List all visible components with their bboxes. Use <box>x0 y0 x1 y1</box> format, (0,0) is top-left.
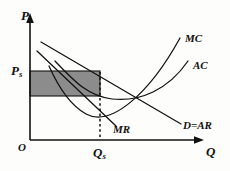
price-level-label: Ps <box>11 64 22 79</box>
price-level-subscript: s <box>19 69 22 79</box>
price-axis-label: P <box>21 9 29 22</box>
quantity-level-subscript: s <box>102 151 105 161</box>
quantity-level-letter: Q <box>93 145 102 160</box>
marginal-revenue-label: MR <box>113 124 130 135</box>
diagram-canvas <box>0 0 230 171</box>
average-cost-label: AC <box>193 60 208 71</box>
demand-ar-label: D=AR <box>183 120 212 131</box>
quantity-axis-arrow <box>194 136 204 144</box>
marginal-cost-label: MC <box>185 33 202 44</box>
origin-label: O <box>18 142 26 153</box>
quantity-axis-label: Q <box>206 145 215 158</box>
price-level-letter: P <box>11 63 19 78</box>
economics-diagram: P Q O Ps Qs MC AC D=AR MR <box>0 0 230 171</box>
quantity-level-label: Qs <box>93 146 106 161</box>
